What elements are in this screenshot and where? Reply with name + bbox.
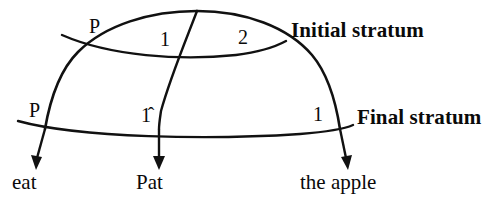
initial-predicate-label: P bbox=[89, 16, 100, 36]
terminal-word-pat: Pat bbox=[136, 172, 163, 193]
subject-arrow-head bbox=[153, 156, 165, 170]
final-stratum-line bbox=[18, 121, 353, 137]
relational-grammar-diagram: P 1 2 P 1̂ 1 Initial stratum Final strat… bbox=[0, 0, 501, 202]
final-object-label: 1 bbox=[313, 104, 323, 124]
object-arrow-line bbox=[340, 129, 346, 158]
final-predicate-label: P bbox=[29, 100, 40, 120]
initial-stratum-caption: Initial stratum bbox=[291, 20, 424, 41]
initial-object-label: 2 bbox=[238, 27, 248, 47]
object-arrow-head bbox=[341, 155, 352, 170]
final-stratum-caption: Final stratum bbox=[357, 107, 481, 128]
stratal-network-graphic bbox=[0, 0, 501, 202]
terminal-word-the-apple: the apple bbox=[300, 172, 376, 193]
initial-subject-label: 1 bbox=[160, 29, 170, 49]
predicate-arrow-line bbox=[37, 129, 45, 158]
final-subject-label: 1̂ bbox=[141, 105, 151, 125]
predicate-arrow-head bbox=[31, 155, 42, 170]
terminal-word-eat: eat bbox=[12, 172, 36, 193]
